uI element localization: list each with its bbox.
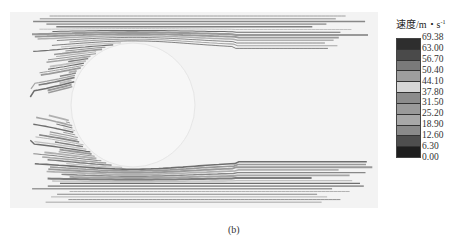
streamline <box>49 115 69 120</box>
color-scale-label: 50.40 <box>422 65 443 75</box>
color-band <box>397 50 420 61</box>
color-scale-label: 6.30 <box>422 141 439 151</box>
streamline-plot <box>10 12 378 208</box>
circular-obstacle <box>71 43 195 167</box>
color-band <box>397 61 420 72</box>
streamline <box>69 71 77 73</box>
color-scale-label: 63.00 <box>422 43 443 53</box>
streamline <box>66 122 70 123</box>
streamline <box>52 181 352 182</box>
color-band <box>397 39 420 50</box>
color-scale-label: 44.10 <box>422 76 443 86</box>
legend-title-superscript: -1 <box>440 19 445 25</box>
color-scale-label: 56.70 <box>422 54 443 64</box>
legend-title: 速度/m・s-1 <box>396 16 445 31</box>
color-scale-label: 69.38 <box>422 32 443 42</box>
streamline <box>48 178 312 180</box>
streamlines <box>10 12 378 208</box>
color-scale-label: 0.00 <box>422 152 439 162</box>
color-band <box>397 93 420 104</box>
streamline <box>39 29 351 30</box>
legend-title-text: 速度/m・s <box>396 19 440 30</box>
color-scale-label: 12.60 <box>422 130 443 140</box>
figure-caption: (b) <box>228 224 240 235</box>
color-scale-label: 25.20 <box>422 108 443 118</box>
color-band <box>397 104 420 115</box>
streamline <box>36 117 72 125</box>
color-band <box>397 115 420 126</box>
color-band <box>397 126 420 137</box>
color-scale-bar <box>396 38 421 158</box>
streamline <box>33 124 73 132</box>
color-band <box>397 82 420 93</box>
color-scale-label: 37.80 <box>422 87 443 97</box>
color-scale-label: 18.90 <box>422 119 443 129</box>
color-scale-label: 31.50 <box>422 97 443 107</box>
color-band <box>397 147 420 157</box>
color-band <box>397 136 420 147</box>
color-band <box>397 71 420 82</box>
